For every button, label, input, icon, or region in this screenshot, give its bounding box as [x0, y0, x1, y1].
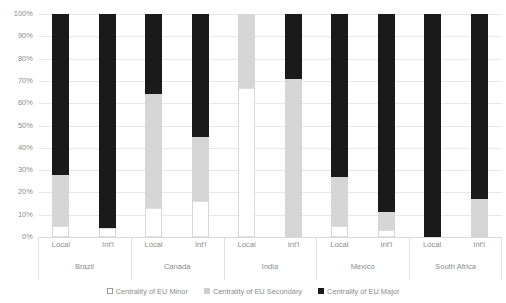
bar-group [224, 14, 317, 237]
group-label: South Africa [401, 262, 506, 272]
stacked-bar-chart: 100%90%80%70%60%50%40%30%20%10%0% LocalI… [0, 0, 506, 303]
bar-segment-secondary [471, 199, 488, 237]
subcategory-label: Int'l [272, 240, 316, 250]
y-tick-label: 30% [18, 166, 33, 174]
y-tick-label: 100% [14, 10, 33, 18]
bar-column[interactable] [99, 14, 116, 237]
bar-stack [331, 14, 348, 237]
subcategory-label: Local [410, 240, 454, 250]
bar-segment-minor [378, 230, 395, 237]
legend-label: Centrality of EU Minor [116, 287, 188, 296]
y-tick-label: 70% [18, 77, 33, 85]
y-tick-label: 20% [18, 188, 33, 196]
subcategory-label: Int'l [364, 240, 408, 250]
bar-segment-minor [99, 228, 116, 237]
group-separator [38, 238, 39, 280]
bar-segment-secondary [285, 79, 302, 237]
bar-segment-secondary [238, 14, 255, 88]
subcategory-label: Local [317, 240, 361, 250]
y-tick-label: 80% [18, 55, 33, 63]
bar-segment-major [145, 14, 162, 94]
legend-item[interactable]: Centrality of EU Minor [107, 287, 188, 296]
bar-column[interactable] [424, 14, 441, 237]
y-tick-label: 10% [18, 211, 33, 219]
bar-segment-major [424, 14, 441, 237]
bar-stack [471, 14, 488, 237]
bar-stack [285, 14, 302, 237]
bar-column[interactable] [331, 14, 348, 237]
subcategory-label: Local [39, 240, 83, 250]
bar-column[interactable] [238, 14, 255, 237]
bar-segment-secondary [378, 212, 395, 230]
bar-column[interactable] [285, 14, 302, 237]
group-separator [316, 238, 317, 280]
subcategory-label: Int'l [457, 240, 501, 250]
legend-swatch-icon [204, 288, 210, 294]
y-axis: 100%90%80%70%60%50%40%30%20%10%0% [0, 0, 36, 240]
bar-segment-major [285, 14, 302, 79]
subcategory-label: Int'l [86, 240, 130, 250]
bar-segment-minor [331, 226, 348, 237]
group-separator [131, 238, 132, 280]
subcategory-label-row: LocalInt'lLocalInt'lLocalInt'lLocalInt'l… [38, 238, 502, 258]
bar-segment-major [471, 14, 488, 199]
plot-area: 100%90%80%70%60%50%40%30%20%10%0% [0, 0, 506, 240]
subcategory-label: Local [225, 240, 269, 250]
category-axis: LocalInt'lLocalInt'lLocalInt'lLocalInt'l… [38, 238, 502, 280]
bar-segment-minor [145, 208, 162, 237]
bar-segment-major [52, 14, 69, 175]
bar-group [131, 14, 224, 237]
bar-segment-secondary [52, 175, 69, 226]
bar-segment-major [378, 14, 395, 212]
legend-swatch-icon [107, 288, 113, 294]
bar-column[interactable] [378, 14, 395, 237]
bar-group [38, 14, 131, 237]
bar-segment-minor [192, 201, 209, 237]
group-separator [409, 238, 410, 280]
bar-column[interactable] [192, 14, 209, 237]
bar-stack [99, 14, 116, 237]
bar-stack [145, 14, 162, 237]
bar-segment-secondary [331, 177, 348, 226]
bar-group [316, 14, 409, 237]
bar-segment-minor [238, 88, 255, 237]
bar-segment-secondary [145, 94, 162, 208]
y-tick-label: 60% [18, 99, 33, 107]
bars-layer [38, 14, 502, 237]
bar-stack [378, 14, 395, 237]
subcategory-label: Int'l [179, 240, 223, 250]
group-separator [501, 238, 502, 280]
y-tick-label: 50% [18, 122, 33, 130]
bar-segment-major [331, 14, 348, 177]
legend-item[interactable]: Centrality of EU Secondary [204, 287, 302, 296]
subcategory-label: Local [132, 240, 176, 250]
bar-segment-major [99, 14, 116, 228]
bar-stack [192, 14, 209, 237]
legend-item[interactable]: Centrality of EU Major [318, 287, 399, 296]
bar-segment-minor [52, 226, 69, 237]
bar-segment-secondary [192, 137, 209, 202]
legend-label: Centrality of EU Secondary [213, 287, 302, 296]
bar-stack [52, 14, 69, 237]
bar-column[interactable] [52, 14, 69, 237]
legend-label: Centrality of EU Major [327, 287, 399, 296]
bar-column[interactable] [471, 14, 488, 237]
y-tick-label: 90% [18, 32, 33, 40]
group-separator [224, 238, 225, 280]
y-tick-label: 0% [22, 233, 33, 241]
bar-group [409, 14, 502, 237]
group-label-row: BrazilCanadaIndiaMexicoSouth Africa [38, 258, 502, 280]
bar-stack [424, 14, 441, 237]
legend-swatch-icon [318, 288, 324, 294]
chart-legend: Centrality of EU MinorCentrality of EU S… [0, 284, 506, 298]
bar-stack [238, 14, 255, 237]
bar-column[interactable] [145, 14, 162, 237]
bar-segment-major [192, 14, 209, 137]
y-tick-label: 40% [18, 144, 33, 152]
